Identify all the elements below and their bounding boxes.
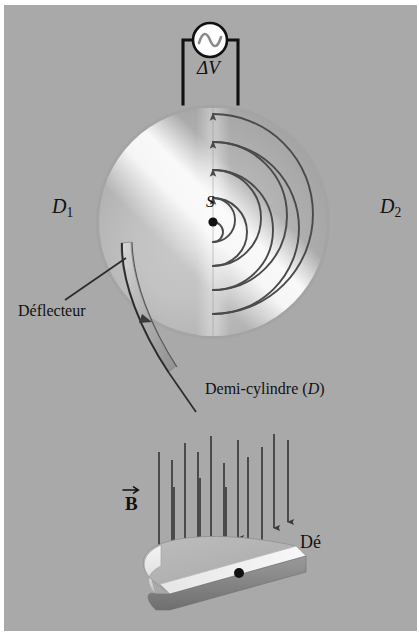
vector-arrow-icon <box>123 485 143 495</box>
half-cylinder-label: Demi-cylindre (D) <box>205 381 325 397</box>
deflector-label: Déflecteur <box>18 303 86 319</box>
dee-left-subscript: 1 <box>66 205 73 220</box>
dee-right-label: D2 <box>380 196 401 220</box>
dee-plate-3d <box>143 536 306 610</box>
voltage-label: ΔV <box>197 58 220 77</box>
figure-canvas: ΔV D1 D2 S Déflecteur Demi-cylindre (D) … <box>0 0 419 633</box>
dee-left-label: D1 <box>52 196 73 220</box>
source-point-marker <box>208 217 217 226</box>
source-point-label: S <box>206 193 215 210</box>
half-cylinder-close: ) <box>319 380 324 397</box>
ac-source-symbol <box>193 23 227 57</box>
dee-left-letter: D <box>52 195 66 217</box>
dee-right-subscript: 2 <box>394 205 401 220</box>
dee-plate-label: Dé <box>300 533 321 551</box>
half-cylinder-text: Demi-cylindre ( <box>205 380 308 397</box>
half-cylinder-symbol: D <box>308 380 320 397</box>
dee-right-letter: D <box>380 195 394 217</box>
magnetic-field-label: B <box>125 494 138 513</box>
magnetic-field-letter: B <box>125 493 138 514</box>
